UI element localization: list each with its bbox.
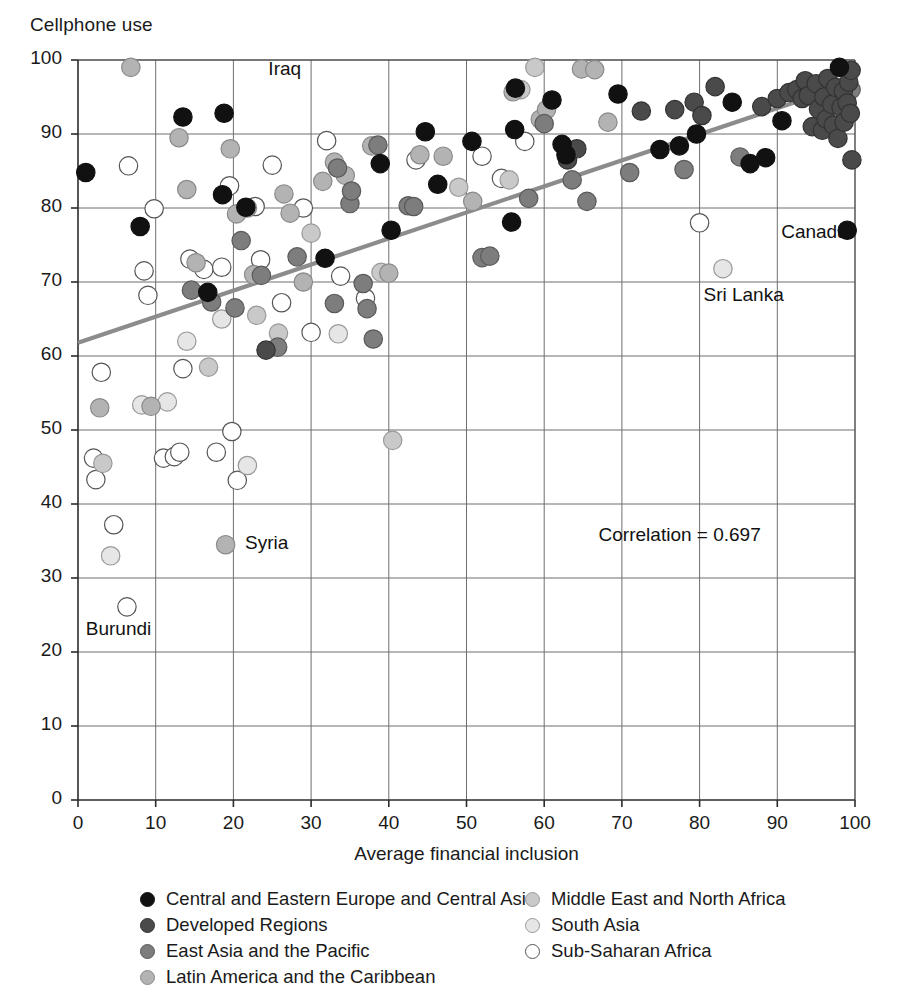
data-point — [174, 359, 192, 377]
legend-marker-icon — [525, 918, 540, 933]
data-point — [481, 247, 499, 265]
data-point — [135, 262, 153, 280]
data-point — [207, 443, 225, 461]
data-point — [404, 197, 422, 215]
data-point — [178, 332, 196, 350]
data-point — [263, 156, 281, 174]
data-point — [557, 146, 575, 164]
data-point — [358, 299, 376, 317]
data-point — [383, 431, 401, 449]
data-point — [502, 213, 520, 231]
annotation-label: Iraq — [268, 58, 301, 80]
data-point — [182, 281, 200, 299]
data-point — [411, 146, 429, 164]
data-point — [756, 148, 774, 166]
data-point — [620, 163, 638, 181]
data-point — [252, 266, 270, 284]
data-point — [675, 160, 693, 178]
data-point — [158, 393, 176, 411]
legend-item[interactable]: Developed Regions — [140, 912, 536, 938]
plot-area — [0, 0, 902, 998]
chart-legend: Central and Eastern Europe and Central A… — [140, 886, 900, 994]
legend-item[interactable]: Sub-Saharan Africa — [525, 938, 785, 964]
data-point — [302, 224, 320, 242]
data-point — [841, 104, 859, 122]
data-point — [651, 140, 669, 158]
legend-item[interactable]: Middle East and North Africa — [525, 886, 785, 912]
data-point — [248, 306, 266, 324]
data-point — [294, 273, 312, 291]
data-point — [535, 114, 553, 132]
data-point — [830, 58, 848, 76]
data-point — [223, 422, 241, 440]
scatter-chart-figure: Cellphone use Average financial inclusio… — [0, 0, 902, 998]
data-point — [380, 264, 398, 282]
legend-column-left: Central and Eastern Europe and Central A… — [140, 886, 536, 990]
data-point — [714, 259, 732, 277]
data-point — [543, 91, 561, 109]
data-point — [829, 129, 847, 147]
data-point — [237, 198, 255, 216]
data-point — [416, 123, 434, 141]
data-point — [178, 180, 196, 198]
data-point — [599, 113, 617, 131]
annotation-label: Correlation = 0.697 — [599, 524, 761, 546]
legend-column-right: Middle East and North AfricaSouth AsiaSu… — [525, 886, 785, 964]
legend-label: Middle East and North Africa — [551, 886, 785, 912]
data-point — [364, 330, 382, 348]
data-point — [434, 147, 452, 165]
annotation-label: Canada — [781, 221, 848, 243]
legend-marker-icon — [525, 944, 540, 959]
gridlines — [78, 60, 855, 800]
data-point — [119, 157, 137, 175]
data-point — [519, 189, 537, 207]
data-point — [578, 192, 596, 210]
axis-ticks — [71, 60, 855, 807]
annotation-label: Sri Lanka — [703, 284, 783, 306]
data-point — [131, 217, 149, 235]
data-point — [171, 443, 189, 461]
data-point — [609, 85, 627, 103]
data-point — [288, 248, 306, 266]
data-point — [723, 93, 741, 111]
legend-label: Central and Eastern Europe and Central A… — [166, 886, 536, 912]
legend-label: Latin America and the Caribbean — [166, 964, 435, 990]
data-point — [693, 106, 711, 124]
legend-marker-icon — [140, 918, 155, 933]
legend-item[interactable]: East Asia and the Pacific — [140, 938, 536, 964]
data-point — [670, 137, 688, 155]
data-point — [92, 363, 110, 381]
data-point — [77, 163, 95, 181]
data-point — [382, 221, 400, 239]
data-point — [142, 397, 160, 415]
data-point — [506, 79, 524, 97]
data-point — [87, 470, 105, 488]
legend-item[interactable]: South Asia — [525, 912, 785, 938]
data-point — [316, 249, 334, 267]
data-point — [354, 274, 372, 292]
legend-marker-icon — [525, 892, 540, 907]
data-point — [328, 159, 346, 177]
data-point — [199, 358, 217, 376]
data-point — [331, 267, 349, 285]
data-point — [773, 111, 791, 129]
data-point — [526, 58, 544, 76]
data-point — [213, 258, 231, 276]
data-point — [843, 151, 861, 169]
data-point — [91, 399, 109, 417]
data-point — [302, 323, 320, 341]
data-point — [317, 131, 335, 149]
data-point — [325, 294, 343, 312]
legend-label: East Asia and the Pacific — [166, 938, 370, 964]
series-latin-america-and-the-caribbean — [91, 58, 618, 554]
data-point — [632, 102, 650, 120]
data-point — [586, 60, 604, 78]
data-point — [174, 108, 192, 126]
data-point — [226, 299, 244, 317]
legend-item[interactable]: Central and Eastern Europe and Central A… — [140, 886, 536, 912]
data-point — [371, 154, 389, 172]
data-point — [105, 516, 123, 534]
annotation-label: Syria — [245, 532, 288, 554]
legend-label: Sub-Saharan Africa — [551, 938, 711, 964]
legend-item[interactable]: Latin America and the Caribbean — [140, 964, 536, 990]
